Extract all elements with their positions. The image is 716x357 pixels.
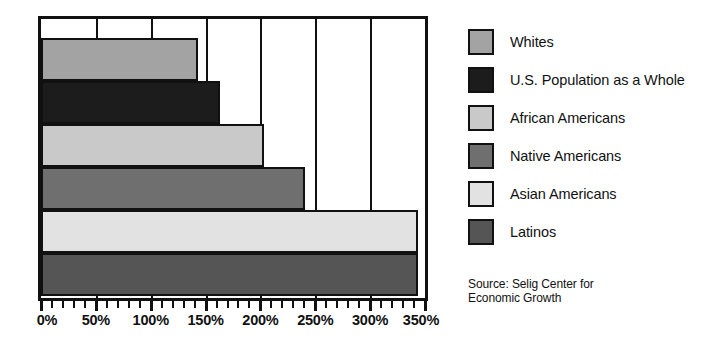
legend-label: U.S. Population as a Whole [510, 72, 685, 88]
legend-label: Asian Americans [510, 186, 617, 202]
tick-minor [270, 301, 272, 308]
tick-minor [347, 301, 349, 308]
tick-major [259, 298, 262, 311]
bar-native-americans[interactable] [41, 167, 305, 210]
tick-minor [62, 301, 64, 308]
bar-u-s-population-as-a-whole[interactable] [41, 81, 220, 124]
bar-latinos[interactable] [41, 253, 418, 296]
x-axis-tick-labels: 0%50%100%150%200%250%300%350% [0, 312, 470, 336]
legend-label: Latinos [510, 224, 556, 240]
tick-minor [336, 301, 338, 308]
tick-major [424, 298, 427, 311]
x-tick-label: 350% [403, 312, 439, 328]
tick-minor [216, 301, 218, 308]
source-note: Source: Selig Center for Economic Growth [468, 278, 698, 305]
bar-african-americans[interactable] [41, 124, 264, 167]
tick-minor [391, 301, 393, 308]
tick-minor [183, 301, 185, 308]
tick-major [314, 298, 317, 311]
tick-minor [84, 301, 86, 308]
tick-major [150, 298, 153, 311]
bar-row [41, 124, 425, 167]
legend-item-u-s-population-as-a-whole[interactable]: U.S. Population as a Whole [468, 61, 712, 99]
tick-major [95, 298, 98, 311]
x-axis [38, 298, 428, 312]
tick-major [369, 298, 372, 311]
x-tick-label: 250% [297, 312, 333, 328]
tick-minor [358, 301, 360, 308]
tick-minor [303, 301, 305, 308]
tick-minor [73, 301, 75, 308]
bar-series [41, 38, 425, 298]
legend-label: Whites [510, 34, 554, 50]
legend-swatch-icon [468, 181, 494, 207]
tick-minor [128, 301, 130, 308]
tick-minor [172, 301, 174, 308]
tick-minor [413, 301, 415, 308]
tick-minor [402, 301, 404, 308]
legend-swatch-icon [468, 143, 494, 169]
tick-minor [161, 301, 163, 308]
chart-legend: WhitesU.S. Population as a WholeAfrican … [468, 23, 712, 251]
legend-swatch-icon [468, 105, 494, 131]
x-tick-label: 100% [133, 312, 169, 328]
tick-minor [292, 301, 294, 308]
legend-item-latinos[interactable]: Latinos [468, 213, 712, 251]
tick-major [40, 298, 43, 311]
legend-item-african-americans[interactable]: African Americans [468, 99, 712, 137]
tick-major [205, 298, 208, 311]
tick-minor [117, 301, 119, 308]
legend-swatch-icon [468, 67, 494, 93]
tick-minor [281, 301, 283, 308]
tick-minor [227, 301, 229, 308]
bar-chart-figure: 0%50%100%150%200%250%300%350% WhitesU.S.… [0, 0, 716, 357]
bar-row [41, 253, 425, 296]
legend-swatch-icon [468, 29, 494, 55]
tick-minor [139, 301, 141, 308]
tick-minor [237, 301, 239, 308]
bar-row [41, 38, 425, 81]
x-tick-label: 300% [352, 312, 388, 328]
legend-item-native-americans[interactable]: Native Americans [468, 137, 712, 175]
tick-minor [194, 301, 196, 308]
x-tick-label: 200% [242, 312, 278, 328]
plot-area [38, 16, 428, 300]
tick-minor [248, 301, 250, 308]
bar-asian-americans[interactable] [41, 210, 418, 253]
x-tick-label: 50% [82, 312, 110, 328]
legend-label: African Americans [510, 110, 625, 126]
x-tick-label: 0% [37, 312, 58, 328]
bar-row [41, 167, 425, 210]
legend-item-asian-americans[interactable]: Asian Americans [468, 175, 712, 213]
bar-whites[interactable] [41, 38, 198, 81]
legend-item-whites[interactable]: Whites [468, 23, 712, 61]
bar-row [41, 210, 425, 253]
legend-swatch-icon [468, 219, 494, 245]
source-line-2: Economic Growth [468, 292, 698, 306]
legend-label: Native Americans [510, 148, 621, 164]
source-line-1: Source: Selig Center for [468, 278, 698, 292]
bar-row [41, 81, 425, 124]
tick-minor [325, 301, 327, 308]
x-tick-label: 150% [187, 312, 223, 328]
tick-minor [380, 301, 382, 308]
tick-minor [51, 301, 53, 308]
tick-minor [106, 301, 108, 308]
